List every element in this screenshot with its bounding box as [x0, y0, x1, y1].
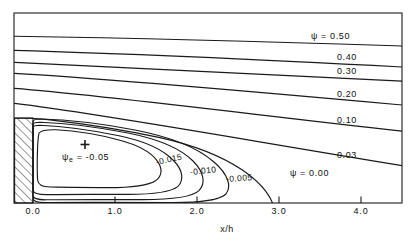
contour-label-psi-020: 0.20 — [337, 89, 357, 99]
contour-label-psi-050: ψ = 0.50 — [311, 31, 350, 41]
eddy-center-marker — [81, 140, 90, 149]
x-tick-label-0: 0.0 — [26, 206, 41, 216]
x-tick-label-3: 3.0 — [272, 206, 287, 216]
eddy-psi-value: = -0.05 — [77, 152, 109, 162]
contour-label-psi-030: 0.30 — [337, 66, 357, 76]
contour-label-psi-040: 0.40 — [337, 52, 357, 62]
contour-label-neg-005: -0.005 — [226, 172, 253, 184]
step-block — [15, 118, 33, 203]
eddy-psi-subscript: e — [69, 156, 74, 163]
contour-label-psi-003: 0.03 — [337, 150, 357, 160]
x-axis-title: x/h — [220, 224, 234, 234]
eddy-psi-symbol: ψ — [62, 152, 69, 162]
streamline-contour-figure: ψ = 0.50 0.40 0.30 0.20 0.10 0.03 ψ = 0.… — [0, 0, 417, 243]
contour-label-psi-010: 0.10 — [337, 115, 357, 125]
eddy-center-label: ψe = -0.05 — [62, 152, 109, 163]
x-tick-label-1: 1.0 — [108, 206, 123, 216]
x-tick-label-2: 2.0 — [190, 206, 205, 216]
x-tick-label-4: 4.0 — [354, 206, 369, 216]
contour-label-psi-000: ψ = 0.00 — [290, 168, 329, 178]
contour-psi-000 — [15, 118, 273, 203]
